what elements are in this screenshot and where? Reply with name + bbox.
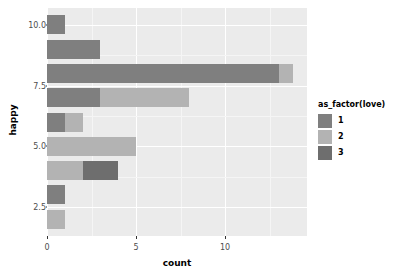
bar-segment (47, 40, 100, 59)
y-tick-label: 5.0 (20, 142, 46, 151)
x-axis-ticks: 0510 (0, 236, 405, 256)
gridline-minor-horizontal (47, 116, 307, 117)
legend-item[interactable]: 3 (318, 145, 402, 160)
x-tick-label: 0 (35, 243, 59, 252)
y-axis-ticks: 2.55.07.510.0 (14, 0, 46, 240)
x-tick-mark (136, 236, 137, 239)
x-tick-label: 5 (124, 243, 148, 252)
legend-item-label: 2 (338, 132, 344, 141)
bar-segment (100, 88, 189, 107)
x-tick-mark (47, 236, 48, 239)
legend-item[interactable]: 2 (318, 129, 402, 144)
bar-segment (83, 161, 119, 180)
legend-item-label: 3 (338, 148, 344, 157)
legend-items: 123 (318, 113, 402, 160)
bar-segment (47, 137, 136, 156)
legend-color-swatch (318, 146, 332, 160)
legend-item-label: 1 (338, 116, 344, 125)
gridline-major-horizontal (47, 207, 307, 208)
gridline-major-vertical (136, 8, 137, 236)
legend-item[interactable]: 1 (318, 113, 402, 128)
gridline-major-horizontal (47, 86, 307, 87)
bar-segment (47, 210, 65, 229)
legend: as_factor(love) 123 (318, 100, 402, 161)
y-tick-label: 7.5 (20, 81, 46, 90)
y-tick-label: 10.0 (20, 20, 46, 29)
y-tick-label: 2.5 (20, 202, 46, 211)
legend-color-swatch (318, 114, 332, 128)
bar-segment (47, 161, 83, 180)
gridline-major-horizontal (47, 25, 307, 26)
legend-color-swatch (318, 130, 332, 144)
bar-segment (47, 64, 279, 83)
gridline-major-vertical (225, 8, 226, 236)
bar-segment (47, 88, 100, 107)
bar-segment (279, 64, 293, 83)
gridline-minor-vertical (181, 8, 182, 236)
x-tick-mark (225, 236, 226, 239)
x-tick-label: 10 (213, 243, 237, 252)
chart-container: happy 2.55.07.510.0 0510 count as_factor… (0, 0, 405, 280)
bar-segment (47, 15, 65, 34)
gridline-minor-vertical (270, 8, 271, 236)
legend-title: as_factor(love) (318, 100, 402, 109)
plot-panel (47, 8, 307, 236)
bar-segment (47, 185, 65, 204)
x-axis-title: count (48, 258, 306, 268)
bar-segment (65, 113, 83, 132)
bar-segment (47, 113, 65, 132)
